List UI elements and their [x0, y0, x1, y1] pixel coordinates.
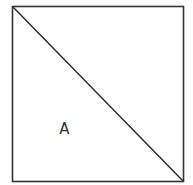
square-diagram: A — [0, 0, 193, 185]
region-label-a: A — [59, 120, 70, 138]
